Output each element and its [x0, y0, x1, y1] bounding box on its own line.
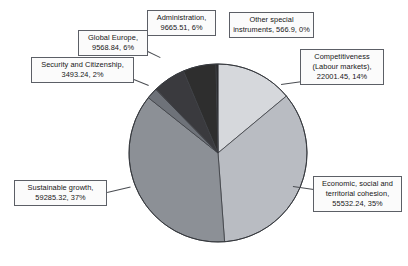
pie-label-other-special-line2: instruments, 566.9, 0% [233, 25, 310, 35]
pie-label-competitiveness: Competitiveness (Labour markets), 22001.… [300, 49, 384, 85]
pie-label-other-special-instruments: Other special instruments, 566.9, 0% [229, 12, 314, 38]
pie-label-administration-line2: 9665.51, 6% [151, 23, 212, 33]
pie-label-global-europe-line2: 9568.84, 6% [82, 43, 144, 53]
pie-chart-canvas [0, 0, 408, 266]
pie-label-sustainable-growth: Sustainable growth, 59285.32, 37% [14, 180, 107, 206]
pie-label-global-europe: Global Europe, 9568.84, 6% [78, 30, 148, 56]
pie-label-competitiveness-line3: 22001.45, 14% [304, 72, 380, 82]
pie-label-security-line1: Security and Citizenship, [35, 60, 130, 70]
pie-slice-group [129, 64, 307, 242]
pie-label-security-line2: 3493.24, 2% [35, 70, 130, 80]
pie-label-economic-social-territorial-cohesion: Economic, social and territorial cohesio… [313, 176, 402, 212]
pie-label-security-and-citizenship: Security and Citizenship, 3493.24, 2% [31, 57, 134, 83]
pie-label-competitiveness-line1: Competitiveness [304, 52, 380, 62]
pie-label-economic-line1: Economic, social and [317, 179, 398, 189]
pie-label-administration: Administration, 9665.51, 6% [147, 10, 216, 36]
pie-label-administration-line1: Administration, [151, 13, 212, 23]
pie-label-economic-line3: 55532.24, 35% [317, 199, 398, 209]
pie-label-economic-line2: territorial cohesion, [317, 189, 398, 199]
pie-label-other-special-line1: Other special [233, 15, 310, 25]
pie-chart-figure: Administration, 9665.51, 6% Other specia… [0, 0, 408, 266]
pie-label-competitiveness-line2: (Labour markets), [304, 62, 380, 72]
pie-label-global-europe-line1: Global Europe, [82, 33, 144, 43]
pie-label-sustainable-line2: 59285.32, 37% [18, 193, 103, 203]
pie-label-sustainable-line1: Sustainable growth, [18, 183, 103, 193]
